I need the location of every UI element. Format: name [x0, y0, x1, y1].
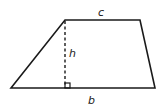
trapezoid-diagram: c h b: [0, 0, 165, 107]
label-height: h: [69, 47, 76, 60]
label-top-side: c: [98, 6, 104, 19]
label-base: b: [88, 94, 95, 107]
trapezoid-outline: [11, 20, 155, 88]
